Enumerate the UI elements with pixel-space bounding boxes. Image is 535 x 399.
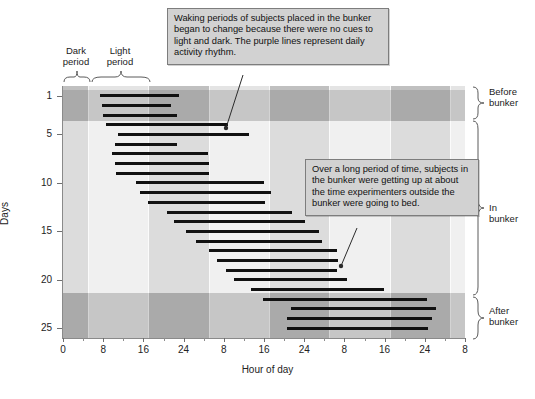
y-tick [57, 96, 62, 97]
after-bunker-brace [472, 296, 486, 340]
x-tick [224, 338, 225, 342]
y-tick-label: 1 [30, 90, 52, 101]
activity-bar-day-11 [140, 191, 271, 194]
phase-label-in-bunker: In bunker [489, 202, 535, 224]
activity-bar-day-5 [118, 133, 249, 136]
phase-after-line1: After [489, 305, 535, 316]
activity-bar-day-3 [103, 114, 177, 117]
x-minor-tick [123, 338, 124, 341]
x-tick [465, 338, 466, 342]
y-tick-label: 15 [30, 225, 52, 236]
phase-in-line1: In [489, 202, 535, 213]
phase-in-line2: bunker [489, 213, 535, 224]
activity-bar-day-9 [116, 172, 209, 175]
y-tick-label: 10 [30, 177, 52, 188]
x-minor-tick [83, 338, 84, 341]
activity-bar-day-4 [106, 123, 228, 126]
activity-bar-day-12 [148, 201, 265, 204]
y-tick-label: 20 [30, 274, 52, 285]
x-minor-tick [164, 338, 165, 341]
light-period-label-line1: Light [96, 45, 144, 56]
light-period-brace [91, 69, 151, 83]
x-minor-tick [204, 338, 205, 341]
callout-long-period: Over a long period of time, subjects in … [305, 159, 479, 216]
activity-bar-day-6 [115, 143, 177, 146]
x-axis-title: Hour of day [0, 364, 535, 375]
activity-bar-day-19 [226, 269, 337, 272]
x-tick-label: 16 [373, 344, 397, 355]
x-tick-label: 0 [51, 344, 75, 355]
x-minor-tick [284, 338, 285, 341]
activity-bar-day-23 [291, 307, 436, 310]
x-minor-tick [244, 338, 245, 341]
x-tick-label: 24 [292, 344, 316, 355]
activity-bar-day-21 [251, 288, 383, 291]
x-tick-label: 8 [91, 344, 115, 355]
activity-bar-day-2 [102, 104, 171, 107]
activity-bar-day-20 [234, 278, 348, 281]
x-tick-label: 16 [131, 344, 155, 355]
activity-bar-day-25 [287, 327, 428, 330]
x-minor-tick [324, 338, 325, 341]
phase-after-line2: bunker [489, 316, 535, 327]
x-tick-label: 24 [413, 344, 437, 355]
phase-label-after-bunker: After bunker [489, 305, 535, 327]
y-axis-title: Days [0, 202, 10, 225]
activity-bar-day-16 [196, 240, 323, 243]
y-axis-line [62, 86, 63, 339]
activity-bar-day-17 [209, 249, 338, 252]
dark-period-label: Dark period [52, 45, 100, 67]
y-tick [57, 280, 62, 281]
x-tick [344, 338, 345, 342]
light-period-label: Light period [96, 45, 144, 67]
activity-bar-day-14 [174, 220, 305, 223]
y-tick [57, 134, 62, 135]
dark-period-brace [63, 69, 91, 83]
activity-bar-day-18 [217, 259, 339, 262]
activity-bar-day-22 [263, 298, 427, 301]
x-tick [63, 338, 64, 342]
phase-before-line1: Before [489, 86, 535, 97]
phase-label-before-bunker: Before bunker [489, 86, 535, 108]
activity-bar-day-13 [167, 211, 293, 214]
callout-waking-periods: Waking periods of subjects placed in the… [167, 8, 389, 65]
light-period-label-line2: period [96, 56, 144, 67]
y-tick [57, 328, 62, 329]
x-tick [143, 338, 144, 342]
activity-bar-day-1 [100, 94, 179, 97]
activity-bar-day-10 [136, 181, 264, 184]
x-tick-label: 16 [252, 344, 276, 355]
x-tick-label: 8 [453, 344, 477, 355]
x-tick-label: 8 [332, 344, 356, 355]
x-minor-tick [365, 338, 366, 341]
x-tick [264, 338, 265, 342]
y-tick [57, 231, 62, 232]
activity-bar-day-15 [186, 230, 319, 233]
dark-period-label-line1: Dark [52, 45, 100, 56]
x-tick [103, 338, 104, 342]
activity-bar-day-24 [287, 317, 432, 320]
x-tick-label: 8 [212, 344, 236, 355]
x-tick [304, 338, 305, 342]
y-tick-label: 5 [30, 128, 52, 139]
x-tick [385, 338, 386, 342]
activity-bar-day-8 [115, 162, 209, 165]
y-tick [57, 183, 62, 184]
phase-before-line2: bunker [489, 97, 535, 108]
x-tick [425, 338, 426, 342]
dark-period-label-line2: period [52, 56, 100, 67]
x-minor-tick [405, 338, 406, 341]
x-minor-tick [445, 338, 446, 341]
before-bunker-brace [472, 86, 486, 120]
activity-bar-day-7 [112, 152, 208, 155]
x-tick [184, 338, 185, 342]
x-tick-label: 24 [172, 344, 196, 355]
y-tick-label: 25 [30, 322, 52, 333]
